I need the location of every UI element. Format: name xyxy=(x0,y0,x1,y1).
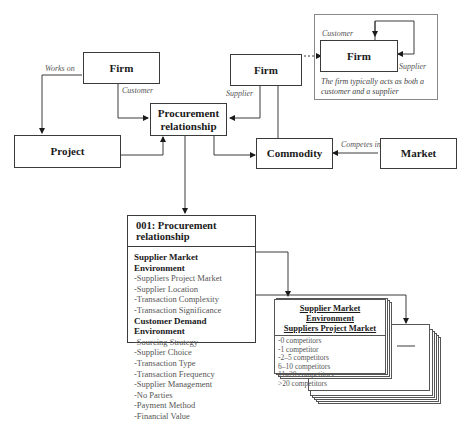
attribute-item: -No Parties xyxy=(134,390,249,401)
value-item: >20 competitors xyxy=(278,380,382,389)
section-heading: Supplier Market Environment xyxy=(134,252,249,273)
supplier-label: Supplier xyxy=(226,89,253,98)
attribute-item: -Supplier Location xyxy=(134,284,249,295)
attribute-item: -Supplier Choice xyxy=(134,347,249,358)
project-node: Project xyxy=(14,135,121,168)
inset-supplier-label: Supplier xyxy=(399,62,426,71)
attribute-item: -Supplier Management xyxy=(134,379,249,390)
attribute-item: -Transaction Type xyxy=(134,358,249,369)
card-title-line2: Suppliers Project Market xyxy=(275,323,385,333)
attribute-item: -Transaction Frequency xyxy=(134,369,249,380)
inset-customer-label: Customer xyxy=(322,29,353,38)
competes-in-label: Competes in xyxy=(341,140,381,149)
market-node: Market xyxy=(380,138,457,169)
attribute-item: -Transaction Significance xyxy=(134,305,249,316)
works-on-label: Works on xyxy=(45,64,75,73)
attribute-item: -Payment Method xyxy=(134,400,249,411)
firm-node-center: Firm xyxy=(230,54,302,86)
inset-firm-node: Firm xyxy=(320,40,398,72)
attribute-item: -Financial Value xyxy=(134,411,249,421)
commodity-node: Commodity xyxy=(256,138,333,169)
card-title-line1: Supplier Market Environment xyxy=(275,303,385,323)
section-heading: Customer Demand Environment xyxy=(134,316,249,337)
value-domain-card: Supplier Market Environment Suppliers Pr… xyxy=(274,299,386,374)
procurement-entity-card: 001: Procurement relationship Supplier M… xyxy=(127,215,256,343)
inset-note: The firm typically acts as both a custom… xyxy=(321,77,433,97)
attribute-item: -Transaction Complexity xyxy=(134,294,249,305)
entity-title: 001: Procurement relationship xyxy=(128,216,255,247)
procurement-relationship-node: Procurement relationship xyxy=(150,103,227,136)
customer-label: Customer xyxy=(122,86,153,95)
attribute-item: -Sourcing Strategy xyxy=(134,337,249,348)
attribute-item: -Suppliers Project Market xyxy=(134,273,249,284)
firm-node-left: Firm xyxy=(83,52,160,84)
